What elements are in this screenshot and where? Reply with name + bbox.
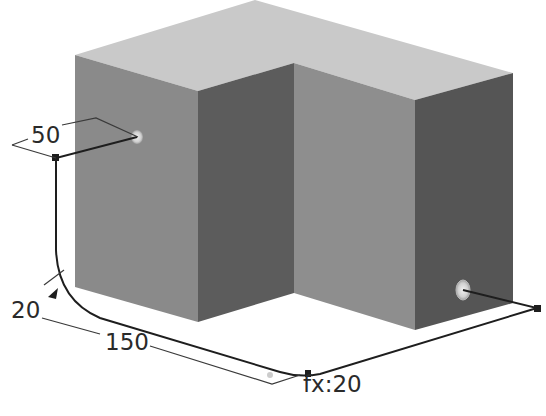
path-vertex-marker[interactable] xyxy=(534,305,541,312)
left-face[interactable] xyxy=(75,55,198,322)
l-shaped-solid[interactable] xyxy=(75,0,513,330)
dimension-fillet-radius[interactable]: 20 xyxy=(11,270,64,323)
front-inner-face[interactable] xyxy=(198,63,294,322)
dimension-length[interactable]: 150 xyxy=(42,318,300,384)
dimension-label-width[interactable]: 50 xyxy=(31,122,60,148)
dimension-label-fillet-radius[interactable]: 20 xyxy=(11,297,40,323)
dimension-label-fillet-expression[interactable]: fx:20 xyxy=(303,371,362,397)
inner-right-face[interactable] xyxy=(294,63,415,330)
cad-viewport: 50 20 150 fx:20 xyxy=(0,0,546,416)
dimension-label-length[interactable]: 150 xyxy=(105,329,149,355)
